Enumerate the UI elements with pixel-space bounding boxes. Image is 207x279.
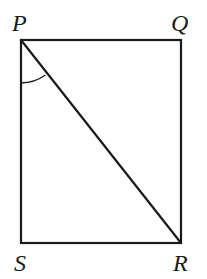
vertex-label-s: S: [14, 250, 26, 276]
vertex-label-q: Q: [171, 10, 188, 36]
angle-arc-p: [21, 75, 46, 83]
rectangle-diagram: P Q S R: [0, 0, 207, 279]
vertex-label-r: R: [172, 250, 188, 276]
vertex-label-p: P: [11, 10, 27, 36]
diagonal-pr: [21, 40, 181, 243]
